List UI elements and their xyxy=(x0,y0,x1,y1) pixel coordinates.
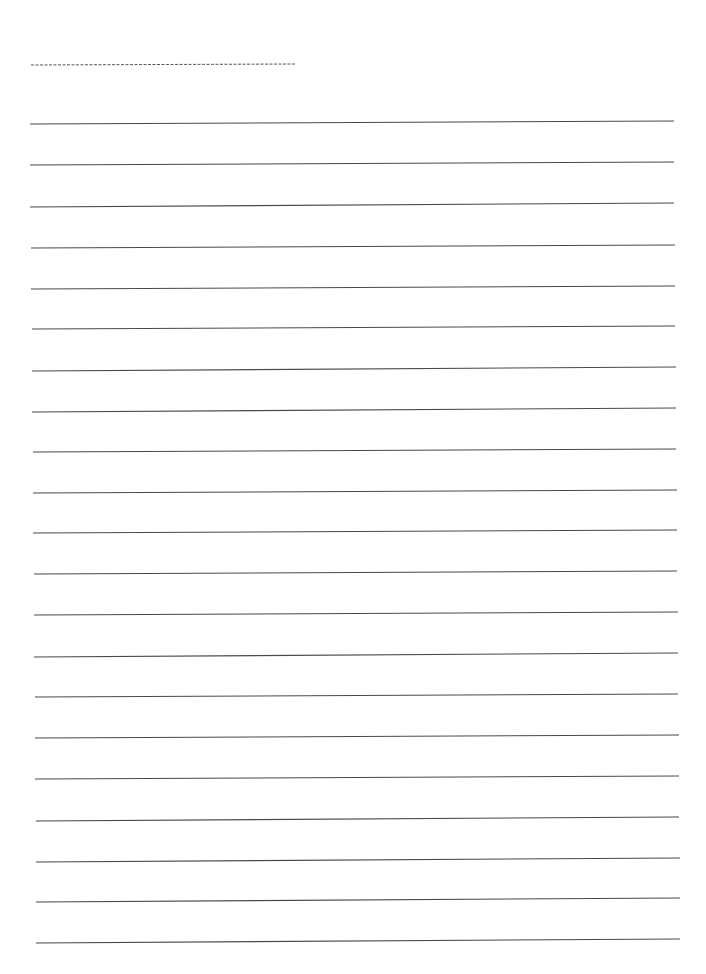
ruled-line xyxy=(34,571,677,574)
writing-line-13[interactable] xyxy=(34,582,678,612)
writing-line-14[interactable] xyxy=(34,623,678,653)
ruled-line xyxy=(35,735,679,738)
writing-line-19[interactable] xyxy=(36,828,680,858)
ruled-line xyxy=(36,898,680,902)
ruled-line xyxy=(36,817,679,821)
ruled-line xyxy=(32,367,676,371)
ruled-line xyxy=(31,286,675,289)
writing-line-18[interactable] xyxy=(36,787,679,817)
writing-line-8[interactable] xyxy=(32,378,676,408)
ruled-line xyxy=(34,653,678,657)
lined-paper-sheet xyxy=(0,0,706,974)
writing-line-6[interactable] xyxy=(32,296,675,326)
writing-line-20[interactable] xyxy=(36,868,680,898)
writing-line-1[interactable] xyxy=(30,91,674,121)
ruled-line xyxy=(32,408,676,412)
ruled-line xyxy=(36,939,680,943)
writing-line-5[interactable] xyxy=(31,256,675,286)
writing-line-9[interactable] xyxy=(33,419,676,449)
writing-line-4[interactable] xyxy=(31,215,675,245)
ruled-line xyxy=(30,203,674,207)
ruled-line xyxy=(33,530,677,533)
writing-line-12[interactable] xyxy=(34,541,677,571)
header-name-field[interactable] xyxy=(31,42,296,66)
writing-line-10[interactable] xyxy=(33,460,677,490)
ruled-line xyxy=(30,162,674,165)
ruled-line xyxy=(35,776,679,779)
ruled-line xyxy=(33,490,677,493)
ruled-line xyxy=(33,449,676,452)
writing-line-7[interactable] xyxy=(32,337,676,367)
ruled-line xyxy=(31,245,675,248)
ruled-line xyxy=(32,326,675,329)
writing-line-16[interactable] xyxy=(35,705,679,735)
writing-line-17[interactable] xyxy=(35,746,679,776)
writing-line-3[interactable] xyxy=(30,173,674,203)
ruled-line xyxy=(36,858,680,862)
ruled-line xyxy=(34,612,678,615)
writing-line-15[interactable] xyxy=(35,664,678,694)
writing-line-11[interactable] xyxy=(33,500,677,530)
writing-line-2[interactable] xyxy=(30,132,674,162)
ruled-line xyxy=(30,121,674,124)
ruled-line xyxy=(35,694,678,697)
writing-line-21[interactable] xyxy=(36,909,680,939)
